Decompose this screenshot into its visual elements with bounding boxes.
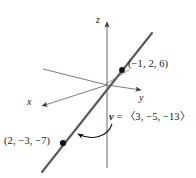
- y-axis-label: y: [139, 93, 143, 103]
- z-axis-label: z: [96, 15, 100, 25]
- leader-line-point-a: [106, 70, 129, 84]
- point-label-a: (−1, 2, 6): [128, 59, 168, 70]
- vector-label: v = 〈3, −5, −13〉: [109, 112, 190, 123]
- x-axis-label: x: [27, 97, 31, 107]
- point-label-b: (2, −3, −7): [4, 136, 50, 147]
- coordinate-figure: [0, 0, 196, 178]
- figure-canvas: z y x (−1, 2, 6) (2, −3, −7) v = 〈3, −5,…: [0, 0, 196, 178]
- point-marker-a: [119, 67, 125, 73]
- point-marker-b: [60, 140, 66, 146]
- vector-components: 〈3, −5, −13〉: [125, 111, 190, 122]
- y-axis: [43, 69, 141, 90]
- line-through-points: [42, 33, 152, 172]
